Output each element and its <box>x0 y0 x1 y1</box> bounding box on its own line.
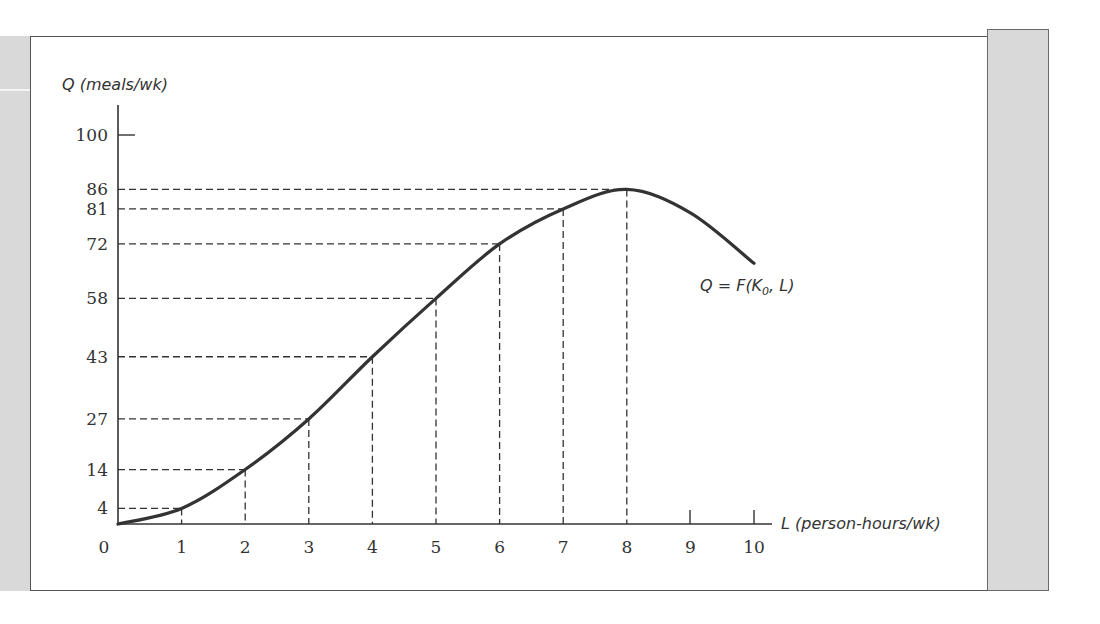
x-tick-label: 10 <box>743 537 765 557</box>
production-function-chart: Q (meals/wk) L (person-hours/wk) Q = F(K… <box>0 0 1100 624</box>
y-tick-label: 27 <box>86 409 108 429</box>
y-tick-label: 100 <box>76 125 108 145</box>
y-axis-title: Q (meals/wk) <box>62 75 168 94</box>
y-tick-label: 43 <box>86 347 108 367</box>
x-tick-label: 2 <box>240 537 251 557</box>
x-tick-label: 1 <box>176 537 187 557</box>
x-tick-label: 9 <box>685 537 696 557</box>
y-tick-label: 86 <box>86 179 108 199</box>
x-tick-labels: 012345678910 <box>99 537 765 557</box>
x-tick-label: 6 <box>494 537 505 557</box>
x-tick-label: 7 <box>558 537 569 557</box>
x-axis-title: L (person-hours/wk) <box>781 514 941 533</box>
x-tick-label: 4 <box>367 537 378 557</box>
y-tick-label: 14 <box>86 460 108 480</box>
x-tick-label: 0 <box>99 537 110 557</box>
y-tick-label: 81 <box>86 199 108 219</box>
y-tick-label: 72 <box>86 234 108 254</box>
x-tick-label: 5 <box>431 537 442 557</box>
y-tick-labels: 414274358728186100 <box>76 125 108 518</box>
x-tick-label: 8 <box>621 537 632 557</box>
x-tick-label: 3 <box>303 537 314 557</box>
curve-label: Q = F(K0, L) <box>700 276 794 298</box>
y-tick-label: 4 <box>97 498 108 518</box>
y-tick-label: 58 <box>86 288 108 308</box>
